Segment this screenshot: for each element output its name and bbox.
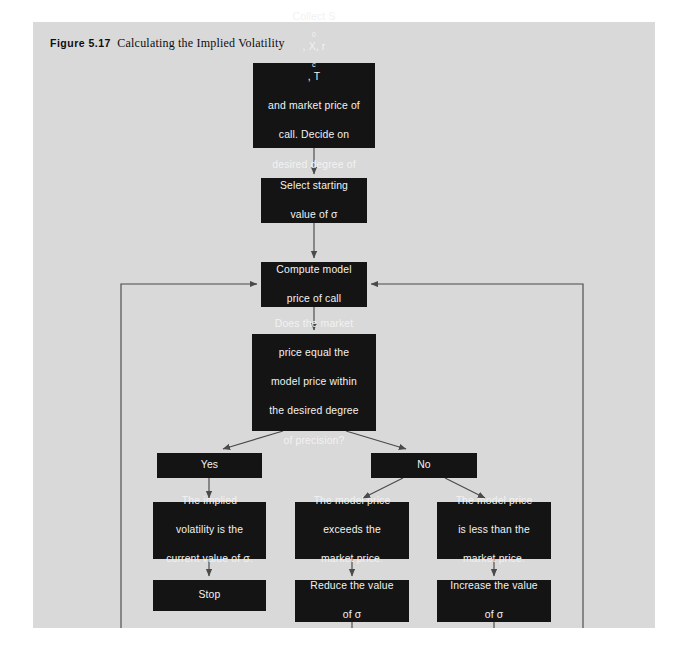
implied-line1: The implied: [158, 494, 261, 509]
yes-label: Yes: [162, 458, 257, 473]
less-line3: market price.: [442, 552, 546, 567]
node-model-exceeds-market: The model price exceeds the market price…: [295, 502, 409, 559]
node-branch-yes: Yes: [157, 453, 262, 478]
decision-line5: of precision?: [257, 434, 371, 449]
collect-line4: desired degree of: [258, 158, 370, 173]
node-increase-sigma: Increase the value of σ: [437, 580, 551, 622]
figure-panel: Figure 5.17 Calculating the Implied Vola…: [33, 22, 655, 628]
node-reduce-sigma: Reduce the value of σ: [295, 580, 409, 622]
node-compute-model-price: Compute model price of call: [261, 262, 367, 307]
reduce-line2: of σ: [300, 608, 404, 623]
node-select-starting-value: Select starting value of σ: [261, 178, 367, 223]
collect-line1-post: , T: [258, 70, 370, 85]
reduce-line1: Reduce the value: [300, 579, 404, 594]
compute-line2: price of call: [266, 292, 362, 307]
select-line1: Select starting: [266, 179, 362, 194]
implied-line3: current value of σ.: [158, 552, 261, 567]
exceeds-line3: market price.: [300, 552, 404, 567]
node-model-less-than-market: The model price is less than the market …: [437, 502, 551, 559]
select-line2: value of σ: [266, 208, 362, 223]
implied-line2: volatility is the: [158, 523, 261, 538]
node-precision-decision: Does the market price equal the model pr…: [252, 334, 376, 431]
collect-line3: call. Decide on: [258, 128, 370, 143]
increase-line1: Increase the value: [442, 579, 546, 594]
decision-line4: the desired degree: [257, 404, 371, 419]
stop-label: Stop: [158, 588, 261, 603]
collect-line1-mid: , X, r: [258, 40, 370, 55]
decision-line2: price equal the: [257, 346, 371, 361]
collect-subscript-zero: 0: [312, 30, 316, 39]
node-collect-inputs: Collect S0, X, rc, T and market price of…: [253, 63, 375, 148]
node-stop: Stop: [153, 580, 266, 611]
collect-line2: and market price of: [258, 99, 370, 114]
no-label: No: [376, 458, 472, 473]
compute-line1: Compute model: [266, 263, 362, 278]
less-line1: The model price: [442, 494, 546, 509]
decision-line3: model price within: [257, 375, 371, 390]
decision-line1: Does the market: [257, 317, 371, 332]
exceeds-line1: The model price: [300, 494, 404, 509]
collect-subscript-c: c: [312, 60, 316, 69]
increase-line2: of σ: [442, 608, 546, 623]
exceeds-line2: exceeds the: [300, 523, 404, 538]
collect-line1-pre: Collect S: [258, 10, 370, 25]
less-line2: is less than the: [442, 523, 546, 538]
node-branch-no: No: [371, 453, 477, 478]
node-implied-volatility-result: The implied volatility is the current va…: [153, 502, 266, 559]
